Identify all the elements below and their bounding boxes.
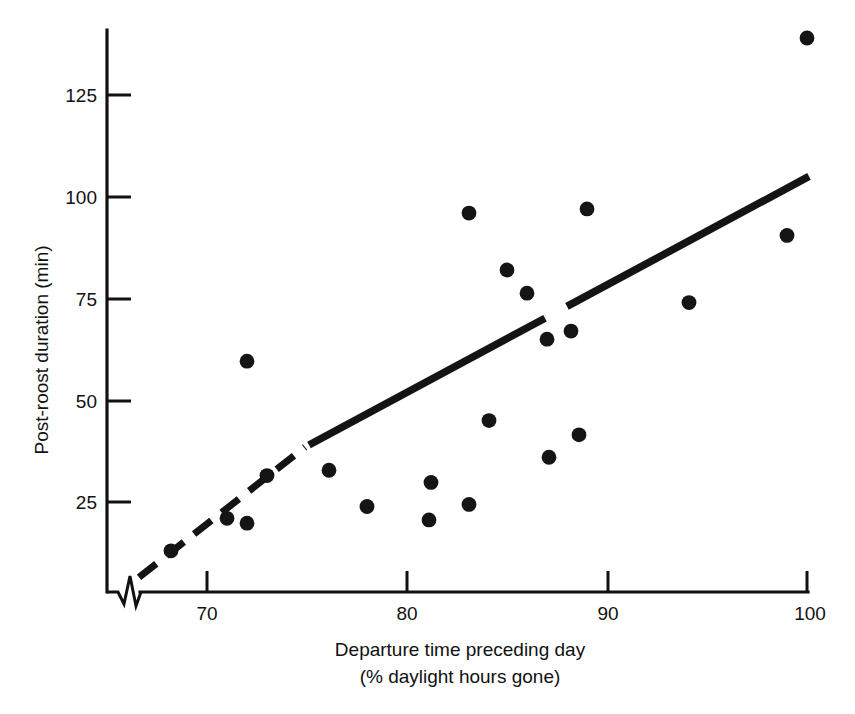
data-point xyxy=(240,516,255,531)
x-ticklabel-100: 100 xyxy=(794,603,826,624)
y-ticklabel-125: 125 xyxy=(65,85,97,106)
y-ticklabel-25: 25 xyxy=(76,492,97,513)
regression-line-dashed-extension xyxy=(139,447,305,577)
data-point xyxy=(542,450,557,465)
x-ticklabel-80: 80 xyxy=(396,603,417,624)
data-point xyxy=(540,332,555,347)
data-point xyxy=(564,324,579,339)
data-point xyxy=(164,543,179,558)
data-point xyxy=(360,499,375,514)
y-tick-group xyxy=(107,95,131,502)
data-point xyxy=(800,31,815,46)
y-axis-label: Post-roost duration (min) xyxy=(31,245,52,454)
data-point xyxy=(424,475,439,490)
data-point xyxy=(520,286,535,301)
plot-canvas: 125 100 75 50 25 70 80 90 100 Post-roost… xyxy=(0,0,855,714)
scatter-plot-figure: 125 100 75 50 25 70 80 90 100 Post-roost… xyxy=(0,0,855,714)
data-point xyxy=(500,263,515,278)
x-axis-label-line1: Departure time preceding day xyxy=(335,639,586,660)
regression-line-segment-lower xyxy=(309,318,545,445)
data-point xyxy=(422,513,437,528)
data-point xyxy=(780,228,795,243)
y-ticklabel-50: 50 xyxy=(76,391,97,412)
data-point xyxy=(682,295,697,310)
y-ticklabel-75: 75 xyxy=(76,289,97,310)
axis-break-zigzag xyxy=(107,576,141,606)
data-point-layer xyxy=(164,31,815,559)
x-ticklabel-90: 90 xyxy=(597,603,618,624)
data-point xyxy=(580,202,595,217)
y-ticklabel-100: 100 xyxy=(65,187,97,208)
data-point xyxy=(462,206,477,221)
regression-line-segment-upper xyxy=(567,176,809,306)
x-ticklabel-group: 70 80 90 100 xyxy=(196,603,825,624)
x-axis-label-line2: (% daylight hours gone) xyxy=(360,666,561,687)
data-point xyxy=(572,427,587,442)
data-point xyxy=(260,468,275,483)
data-point xyxy=(220,511,235,526)
data-point xyxy=(482,413,497,428)
data-point xyxy=(462,497,477,512)
x-tick-group xyxy=(207,571,807,592)
data-point xyxy=(322,463,337,478)
x-ticklabel-70: 70 xyxy=(196,603,217,624)
data-point xyxy=(240,354,255,369)
y-ticklabel-group: 125 100 75 50 25 xyxy=(65,85,97,513)
